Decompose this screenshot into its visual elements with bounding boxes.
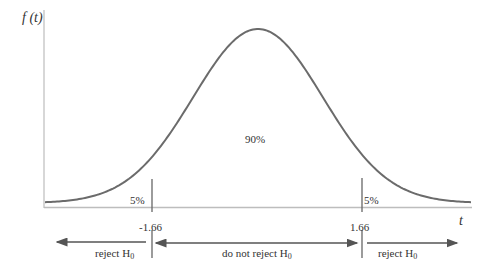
center-decision-label: do not reject H0 bbox=[222, 248, 292, 261]
x-axis-label: t bbox=[459, 214, 463, 228]
y-axis-label: f (t) bbox=[22, 11, 43, 25]
left-decision-label: reject H0 bbox=[95, 248, 134, 261]
left-critical-value: -1.66 bbox=[139, 222, 162, 233]
right-critical-value: 1.66 bbox=[350, 222, 369, 233]
density-curve bbox=[45, 29, 471, 202]
right-decision-label: reject H0 bbox=[378, 248, 417, 261]
left-tail-percent: 5% bbox=[130, 195, 145, 206]
center-percent: 90% bbox=[245, 134, 265, 145]
right-tail-percent: 5% bbox=[364, 195, 379, 206]
